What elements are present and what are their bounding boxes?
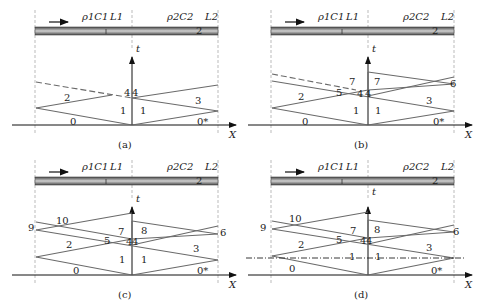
material2-label: ρ2C2 — [402, 161, 429, 172]
region-5: 5 — [104, 235, 110, 246]
length2-label: L2 — [204, 161, 218, 172]
material1-label: ρ1C1 — [81, 11, 108, 22]
material2-label: ρ2C2 — [166, 161, 193, 172]
region-4-left: 4 — [124, 87, 130, 98]
region-2: 2 — [298, 239, 304, 250]
region-3: 3 — [193, 243, 199, 254]
panel-d: ρ1C1 L1 ρ2C2 L2 2 t X 0 0* 1 1 2 3 4 4 5… — [246, 160, 473, 300]
region-0-star: 0* — [197, 116, 208, 127]
region-1-left: 1 — [349, 251, 355, 262]
region-0: 0 — [73, 265, 79, 276]
material1-label: ρ1C1 — [317, 161, 344, 172]
region-5: 5 — [336, 234, 342, 245]
length1-label: L1 — [109, 161, 123, 172]
region-1-left: 1 — [120, 105, 126, 116]
region-6: 6 — [220, 227, 226, 238]
material2-label: ρ2C2 — [166, 11, 193, 22]
region-1-right: 1 — [141, 254, 147, 265]
bar-marker-2: 2 — [196, 175, 202, 186]
length1-label: L1 — [345, 161, 359, 172]
region-4-right: 4 — [132, 87, 138, 98]
region-3: 3 — [426, 95, 432, 106]
length1-label: L1 — [345, 11, 359, 22]
material1-label: ρ1C1 — [81, 161, 108, 172]
region-7: 7 — [118, 226, 124, 237]
wave-diagram: ρ1C1 L1 ρ2C2 L2 2 t X 0 0* 1 1 2 3 4 4 (… — [0, 0, 485, 304]
t-axis-label: t — [372, 43, 377, 54]
region-4-left: 4 — [357, 88, 363, 99]
t-axis-label: t — [136, 193, 141, 204]
region-2: 2 — [66, 239, 72, 250]
region-1-left: 1 — [353, 105, 359, 116]
region-7-left: 7 — [349, 76, 355, 87]
region-2: 2 — [298, 91, 304, 102]
region-1-left: 1 — [119, 254, 125, 265]
bar-marker-2: 2 — [432, 175, 438, 186]
region-3: 3 — [195, 95, 201, 106]
region-10: 10 — [289, 213, 302, 224]
region-0-star: 0* — [197, 265, 208, 276]
panel-c: ρ1C1 L1 ρ2C2 L2 2 t X 0 0* 1 1 2 3 4 4 5… — [12, 160, 237, 300]
region-8: 8 — [374, 224, 380, 235]
material1-label: ρ1C1 — [317, 11, 344, 22]
caption-d: (d) — [354, 289, 368, 300]
length2-label: L2 — [204, 11, 218, 22]
region-9: 9 — [28, 222, 34, 233]
region-6: 6 — [450, 78, 456, 89]
caption-b: (b) — [354, 139, 368, 150]
length2-label: L2 — [440, 161, 454, 172]
region-0: 0 — [289, 263, 295, 274]
region-0-star: 0* — [431, 265, 442, 276]
region-9: 9 — [260, 222, 266, 233]
region-0: 0 — [302, 116, 308, 127]
region-4-right: 4 — [366, 235, 372, 246]
region-10: 10 — [56, 215, 69, 226]
region-4-right: 4 — [365, 88, 371, 99]
caption-c: (c) — [118, 289, 132, 300]
length2-label: L2 — [440, 11, 454, 22]
x-axis-label: X — [228, 279, 237, 290]
region-0: 0 — [70, 116, 76, 127]
region-1-right: 1 — [140, 105, 146, 116]
region-7-right: 7 — [374, 76, 380, 87]
region-1-right: 1 — [375, 251, 381, 262]
region-0-star: 0* — [433, 116, 444, 127]
region-5: 5 — [336, 87, 342, 98]
x-axis-label: X — [464, 279, 473, 290]
region-7: 7 — [350, 225, 356, 236]
bar-marker-2: 2 — [432, 25, 438, 36]
x-axis-label: X — [464, 129, 473, 140]
length1-label: L1 — [109, 11, 123, 22]
region-4-right: 4 — [132, 236, 138, 247]
region-3: 3 — [426, 242, 432, 253]
t-axis-label: t — [136, 43, 141, 54]
panel-b: ρ1C1 L1 ρ2C2 L2 2 t X 0 0* 1 1 2 3 4 4 5… — [248, 10, 473, 150]
x-axis-label: X — [228, 129, 237, 140]
region-2: 2 — [64, 92, 70, 103]
panel-a: ρ1C1 L1 ρ2C2 L2 2 t X 0 0* 1 1 2 3 4 4 (… — [12, 10, 237, 150]
region-8: 8 — [141, 225, 147, 236]
caption-a: (a) — [118, 139, 132, 150]
bar-marker-2: 2 — [196, 25, 202, 36]
material2-label: ρ2C2 — [402, 11, 429, 22]
region-6: 6 — [453, 226, 459, 237]
t-axis-label: t — [372, 186, 377, 197]
region-1-right: 1 — [375, 105, 381, 116]
